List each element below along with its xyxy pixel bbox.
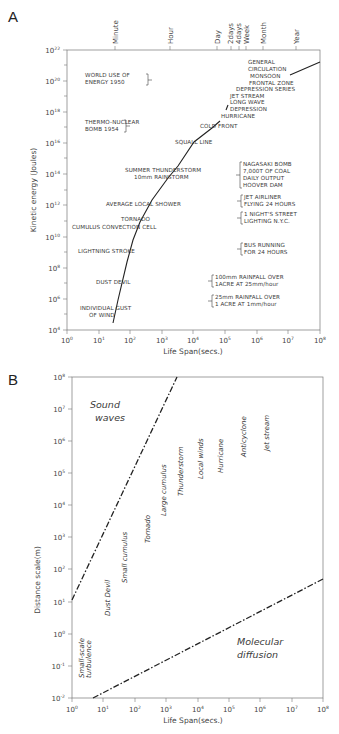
panel-b-x-tick-labels: 100 101 102 103 104 105 106 107 108 <box>66 705 329 714</box>
svg-text:100: 100 <box>61 336 73 345</box>
svg-text:Tornado: Tornado <box>144 515 152 543</box>
svg-text:104: 104 <box>53 501 65 510</box>
svg-text:4days: 4days <box>235 23 243 44</box>
svg-text:101: 101 <box>97 705 109 714</box>
svg-text:INDIVIDUAL GUST: INDIVIDUAL GUST <box>80 305 132 311</box>
svg-text:HOOVER DAM: HOOVER DAM <box>243 182 283 188</box>
panel-a-brackets <box>124 74 243 307</box>
svg-text:Month: Month <box>260 22 268 44</box>
svg-text:103: 103 <box>160 705 172 714</box>
svg-text:104: 104 <box>187 336 199 345</box>
svg-text:Minute: Minute <box>112 20 120 44</box>
svg-text:LONG WAVE: LONG WAVE <box>230 99 265 105</box>
svg-text:101: 101 <box>93 336 105 345</box>
svg-text:105: 105 <box>223 705 235 714</box>
svg-text:1 NIGHT'S STREET: 1 NIGHT'S STREET <box>244 211 297 217</box>
svg-text:Small cumulus: Small cumulus <box>121 531 129 583</box>
svg-text:COLD FRONT: COLD FRONT <box>200 123 238 129</box>
svg-text:Hour: Hour <box>167 27 175 44</box>
svg-text:Hurricane: Hurricane <box>217 439 225 473</box>
svg-text:108: 108 <box>317 705 329 714</box>
svg-text:GENERAL: GENERAL <box>248 59 276 65</box>
svg-text:LIGHTING N.Y.C.: LIGHTING N.Y.C. <box>244 218 290 224</box>
svg-text:1012: 1012 <box>45 201 60 210</box>
svg-text:AVERAGE LOCAL SHOWER: AVERAGE LOCAL SHOWER <box>106 201 181 207</box>
svg-text:ENERGY 1950: ENERGY 1950 <box>85 79 125 85</box>
svg-text:105: 105 <box>219 336 231 345</box>
svg-text:SUMMER THUNDERSTORM: SUMMER THUNDERSTORM <box>125 167 201 173</box>
svg-text:7,000T OF COAL: 7,000T OF COAL <box>243 168 291 174</box>
svg-text:Molecular: Molecular <box>237 636 284 647</box>
svg-text:106: 106 <box>251 336 263 345</box>
svg-text:100: 100 <box>66 705 78 714</box>
panel-b-y-tick-labels: 108 107 106 105 104 103 102 101 100 10-1… <box>52 373 66 703</box>
svg-text:FOR 24 HOURS: FOR 24 HOURS <box>244 249 288 255</box>
svg-text:1014: 1014 <box>45 170 60 179</box>
svg-text:diffusion: diffusion <box>237 649 278 660</box>
svg-text:100mm RAINFALL OVER: 100mm RAINFALL OVER <box>215 274 284 280</box>
svg-text:BUS RUNNING: BUS RUNNING <box>244 242 285 248</box>
svg-text:106: 106 <box>48 295 60 304</box>
svg-text:102: 102 <box>129 705 141 714</box>
svg-text:1018: 1018 <box>45 108 60 117</box>
svg-text:DUST DEVIL: DUST DEVIL <box>96 279 131 285</box>
svg-text:Week: Week <box>243 24 251 44</box>
svg-text:JET AIRLINER: JET AIRLINER <box>243 194 281 201</box>
panel-a-letter: A <box>8 8 18 25</box>
svg-text:100: 100 <box>53 630 65 639</box>
molecular-diffusion-line <box>93 579 323 698</box>
svg-text:Local winds: Local winds <box>197 438 205 479</box>
svg-text:105: 105 <box>53 469 65 478</box>
svg-text:1ACRE AT 25mm/hour: 1ACRE AT 25mm/hour <box>215 281 279 287</box>
svg-text:102: 102 <box>53 565 65 574</box>
svg-text:turbulence: turbulence <box>85 640 93 678</box>
svg-text:102: 102 <box>124 336 136 345</box>
panel-a-top-time-axis: Minute Hour Day 2days 4days Week Month Y… <box>112 20 301 45</box>
svg-text:1022: 1022 <box>45 46 60 55</box>
svg-text:10-1: 10-1 <box>52 662 66 671</box>
svg-text:FLYING 24 HOURS: FLYING 24 HOURS <box>244 201 296 207</box>
svg-text:108: 108 <box>53 373 65 382</box>
svg-text:1 ACRE AT 1mm/hour: 1 ACRE AT 1mm/hour <box>215 301 277 307</box>
svg-text:Anticyclone: Anticyclone <box>240 416 248 458</box>
svg-text:LIGHTNING STROKE: LIGHTNING STROKE <box>78 248 135 254</box>
svg-text:CUMULUS CONVECTION CELL: CUMULUS CONVECTION CELL <box>72 224 157 230</box>
svg-text:DEPRESSION: DEPRESSION <box>230 106 267 112</box>
svg-text:DEPRESSION SERIES: DEPRESSION SERIES <box>236 86 296 92</box>
svg-text:Jet stream: Jet stream <box>263 415 271 453</box>
svg-text:108: 108 <box>48 264 60 273</box>
svg-text:104: 104 <box>48 326 60 335</box>
svg-text:DAILY OUTPUT: DAILY OUTPUT <box>243 175 285 181</box>
svg-text:107: 107 <box>282 336 294 345</box>
panel-a-chart: 1022 1020 1018 1016 1014 1012 1010 108 1… <box>29 20 326 356</box>
panel-b-plot-frame <box>72 377 323 698</box>
svg-text:107: 107 <box>286 705 298 714</box>
svg-text:Thunderstorm: Thunderstorm <box>177 446 185 496</box>
svg-text:Sound: Sound <box>90 399 121 410</box>
svg-text:MONSOON: MONSOON <box>250 73 281 79</box>
panel-a-y-axis-label: Kinetic energy (Joules) <box>29 148 38 233</box>
svg-text:25mm RAINFALL OVER: 25mm RAINFALL OVER <box>215 294 280 300</box>
svg-text:Large cumulus: Large cumulus <box>160 464 168 516</box>
panel-b-letter: B <box>8 371 18 388</box>
panel-a-y-tick-labels: 1022 1020 1018 1016 1014 1012 1010 108 1… <box>45 46 60 335</box>
svg-text:CIRCULATION: CIRCULATION <box>248 66 287 72</box>
svg-text:TORNADO: TORNADO <box>120 216 151 222</box>
svg-text:101: 101 <box>53 598 65 607</box>
panel-b-chart: 108 107 106 105 104 103 102 101 100 10-1… <box>33 373 329 725</box>
svg-text:1020: 1020 <box>45 77 60 86</box>
svg-text:WORLD USE OF: WORLD USE OF <box>85 72 130 78</box>
panel-a-x-axis-label: Life Span(secs.) <box>163 347 223 356</box>
svg-text:waves: waves <box>95 412 125 423</box>
svg-text:Day: Day <box>214 30 222 44</box>
panel-b-y-axis-label: Distance scale(m) <box>33 546 42 614</box>
svg-text:BOMB 1954: BOMB 1954 <box>85 126 119 132</box>
panel-a-x-tick-labels: 100 101 102 103 104 105 106 107 108 <box>61 336 326 345</box>
svg-text:106: 106 <box>254 705 266 714</box>
svg-text:NAGASAKI BOMB: NAGASAKI BOMB <box>243 161 292 167</box>
svg-text:103: 103 <box>156 336 168 345</box>
svg-text:THERMO-NUCLEAR: THERMO-NUCLEAR <box>84 119 139 125</box>
figure: A 1022 1020 1018 1016 1014 1012 1010 108… <box>0 0 339 734</box>
svg-text:SQUALL LINE: SQUALL LINE <box>175 139 213 145</box>
svg-text:1010: 1010 <box>45 233 60 242</box>
